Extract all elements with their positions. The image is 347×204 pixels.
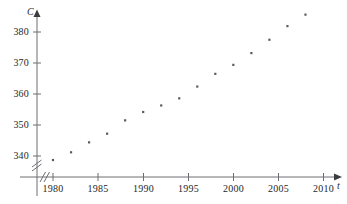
x-axis	[20, 173, 342, 180]
data-point	[160, 104, 162, 106]
data-point	[250, 52, 252, 54]
y-tick-label-340: 340	[8, 150, 29, 161]
x-tick-label-1985: 1985	[81, 183, 115, 194]
data-point	[142, 111, 144, 113]
x-tick-label-1990: 1990	[127, 183, 161, 194]
y-tick-label-370: 370	[8, 57, 29, 68]
data-point	[214, 73, 216, 75]
data-point	[178, 97, 180, 99]
data-point	[304, 14, 306, 16]
x-tick-label-2010: 2010	[307, 183, 341, 194]
data-point	[232, 64, 234, 66]
data-point	[286, 25, 288, 27]
x-tick-label-1980: 1980	[36, 183, 70, 194]
data-point	[106, 133, 108, 135]
x-axis-label: t	[337, 180, 340, 191]
plot-canvas	[0, 0, 347, 204]
y-tick-label-380: 380	[8, 26, 29, 37]
y-tick-label-360: 360	[8, 88, 29, 99]
y-tick-label-350: 350	[8, 119, 29, 130]
data-point	[196, 85, 198, 87]
data-point-series	[52, 14, 307, 162]
data-point	[124, 119, 126, 121]
data-point	[88, 141, 90, 143]
y-axis	[34, 10, 41, 197]
data-point	[70, 151, 72, 153]
data-point	[268, 39, 270, 41]
y-axis-label: C	[27, 6, 34, 17]
x-tick-label-1995: 1995	[172, 183, 206, 194]
co2-scatter-figure: 340 350 360 370 380 1980 1985 1990 1995 …	[0, 0, 347, 204]
x-tick-label-2000: 2000	[217, 183, 251, 194]
data-point	[52, 159, 54, 161]
x-tick-label-2005: 2005	[262, 183, 296, 194]
